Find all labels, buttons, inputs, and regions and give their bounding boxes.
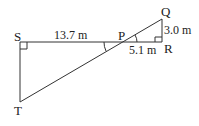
measurement-PR: 5.1 m (129, 44, 156, 56)
angle-arc-QPR (135, 35, 137, 42)
right-angle-S-marker (20, 42, 27, 49)
point-label-R: R (164, 42, 173, 55)
measurement-QR: 3.0 m (164, 24, 191, 36)
point-label-Q: Q (161, 5, 170, 18)
segment-TQ (20, 19, 162, 102)
point-label-P: P (118, 29, 125, 42)
point-label-S: S (14, 30, 21, 43)
angle-arc-SPT (104, 42, 106, 51)
right-angle-R-marker (155, 37, 162, 42)
point-label-T: T (14, 104, 22, 117)
measurement-SP: 13.7 m (54, 29, 87, 41)
